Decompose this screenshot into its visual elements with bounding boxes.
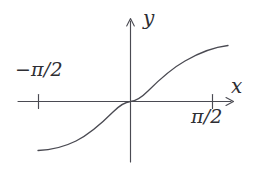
plot-canvas	[0, 0, 261, 169]
sine-curve-figure: y x −π/2 π/2	[0, 0, 261, 169]
x-axis-label: x	[231, 76, 242, 96]
axes-group	[18, 19, 234, 163]
y-axis-label: y	[143, 8, 154, 28]
x-tick-label-half-pi: π/2	[191, 107, 223, 126]
sine-curve-path	[38, 46, 228, 151]
x-tick-label-negative-half-pi: −π/2	[15, 60, 63, 79]
